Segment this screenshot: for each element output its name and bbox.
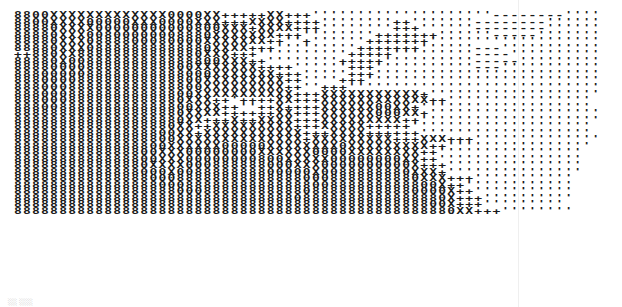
art-row: 8888888888888888888888888888888888888888… bbox=[14, 207, 601, 214]
faint-caption: ░░ ░░░ bbox=[8, 298, 33, 305]
ascii-art-image: 8800XXXXXXXXXXXXX0000XX+++++XX+++'''''''… bbox=[14, 12, 601, 214]
